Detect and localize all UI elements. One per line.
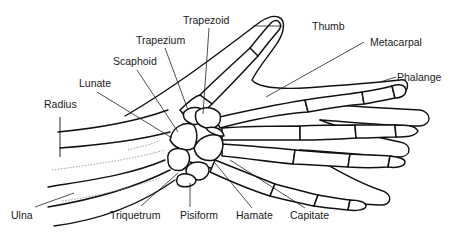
label-ulna: Ulna	[11, 209, 33, 221]
label-phalange: Phalange	[397, 71, 441, 83]
middle-finger-bones	[222, 125, 418, 140]
label-thumb: Thumb	[312, 20, 345, 32]
label-pisiform: Pisiform	[180, 209, 218, 221]
index-finger-bones	[215, 85, 406, 128]
ring-finger-bones	[222, 144, 405, 168]
label-radius: Radius	[44, 98, 77, 110]
label-lunate: Lunate	[79, 77, 111, 89]
label-trapezoid: Trapezoid	[183, 14, 229, 26]
label-metacarpal: Metacarpal	[370, 36, 422, 48]
label-triquetrum: Triquetrum	[110, 209, 160, 221]
label-scaphoid: Scaphoid	[113, 55, 157, 67]
label-hamate: Hamate	[236, 209, 273, 221]
label-trapezium: Trapezium	[136, 34, 185, 46]
label-capitate: Capitate	[290, 209, 329, 221]
